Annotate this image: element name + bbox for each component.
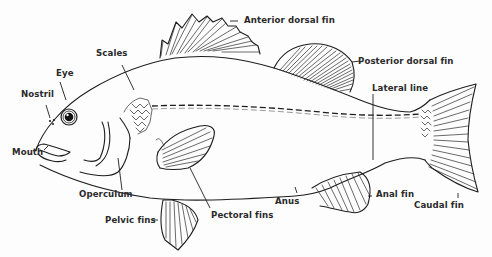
label-nostril: Nostril bbox=[21, 89, 54, 99]
label-eye: Eye bbox=[56, 68, 74, 78]
label-scales: Scales bbox=[96, 48, 128, 58]
label-pelvic-fins: Pelvic fins bbox=[105, 215, 156, 225]
posterior-dorsal-fin-drawing bbox=[274, 44, 354, 92]
pectoral-fin-drawing bbox=[156, 125, 214, 169]
anal-fin-drawing bbox=[312, 172, 370, 213]
label-pectoral-fins: Pectoral fins bbox=[211, 210, 273, 220]
eye-drawing bbox=[61, 109, 77, 125]
label-anus: Anus bbox=[275, 196, 299, 206]
peduncle-scales-drawing bbox=[421, 110, 431, 137]
pelvic-fin-drawing bbox=[161, 200, 198, 250]
scales-drawing bbox=[124, 98, 152, 134]
label-lateral-line: Lateral line bbox=[372, 83, 428, 93]
label-anterior-dorsal-fin: Anterior dorsal fin bbox=[244, 15, 335, 25]
caudal-fin-drawing bbox=[425, 84, 478, 192]
label-caudal-fin: Caudal fin bbox=[414, 200, 464, 210]
body-outline-drawing bbox=[36, 56, 430, 200]
label-mouth: Mouth bbox=[12, 147, 43, 157]
label-posterior-dorsal-fin: Posterior dorsal fin bbox=[358, 56, 454, 66]
operculum-drawing bbox=[80, 118, 130, 176]
label-anal-fin: Anal fin bbox=[376, 189, 414, 199]
label-operculum: Operculum bbox=[79, 189, 133, 199]
fish-anatomy-diagram: Anterior dorsal fin Posterior dorsal fin… bbox=[0, 0, 492, 257]
